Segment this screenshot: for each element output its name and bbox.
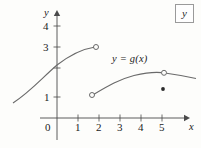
open-circle-branch2-left	[90, 93, 95, 98]
y-axis-label: y	[44, 8, 49, 19]
x-tick-label-5: 5	[159, 122, 165, 133]
corner-badge: y	[175, 4, 194, 23]
y-tick-label-3: 3	[43, 42, 49, 53]
x-tick-label-2: 2	[96, 122, 102, 133]
y-tick-label-4: 4	[43, 21, 49, 32]
curve-branch-2-right	[167, 73, 197, 78]
corner-badge-label: y	[176, 5, 193, 22]
x-tick-label-3: 3	[117, 122, 123, 133]
graph-figure: y x 0 4 3 1 1 2 3 4 5 y = g(x) y	[0, 0, 201, 148]
x-tick-label-4: 4	[138, 122, 144, 133]
curve-branch-2-left	[94, 72, 162, 94]
origin-tick-label: 0	[45, 122, 51, 133]
function-label: y = g(x)	[112, 54, 148, 65]
open-circle-branch1-right	[94, 45, 99, 50]
y-tick-label-1: 1	[44, 92, 50, 103]
x-tick-label-1: 1	[75, 122, 81, 133]
x-axis-label: x	[189, 122, 194, 133]
y-axis-arrow	[54, 10, 60, 16]
filled-point-at-x5	[161, 87, 165, 91]
open-circle-hole-at-x5	[162, 70, 167, 75]
curve-branch-1	[13, 47, 94, 103]
